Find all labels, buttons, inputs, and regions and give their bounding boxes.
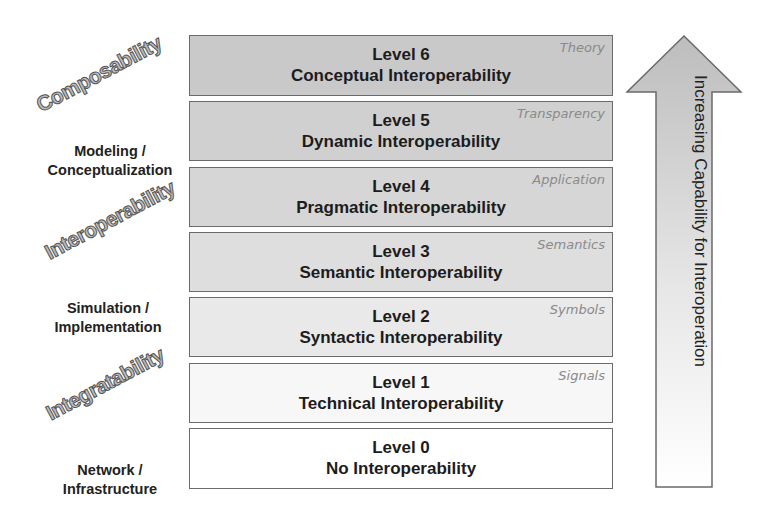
level-name: Pragmatic Interoperability	[190, 197, 612, 219]
level-number: Level 1	[190, 373, 612, 393]
simulation-line-1: Simulation /	[28, 299, 188, 318]
level-name: Syntactic Interoperability	[190, 327, 612, 349]
network-line-2: Infrastructure	[30, 480, 190, 499]
integratability-label: Integratability	[42, 343, 168, 425]
level-name: Dynamic Interoperability	[190, 131, 612, 153]
level-0-box: Level 0 No Interoperability	[189, 428, 613, 489]
level-tag: Application	[532, 172, 605, 187]
modeling-label: Modeling / Conceptualization	[30, 142, 190, 180]
level-tag: Semantics	[537, 237, 605, 252]
level-tag: Theory	[560, 40, 605, 55]
network-label: Network / Infrastructure	[30, 461, 190, 499]
level-tag: Symbols	[550, 302, 605, 317]
level-6-box: Level 6 Conceptual Interoperability Theo…	[189, 35, 613, 96]
level-name: Conceptual Interoperability	[190, 65, 612, 87]
arrow-label: Increasing Capability for Interoperation	[690, 75, 710, 367]
interoperability-label: Interoperability	[41, 176, 179, 265]
level-number: Level 0	[190, 438, 612, 458]
up-arrow-icon	[624, 34, 744, 494]
level-name: Technical Interoperability	[190, 393, 612, 415]
level-name: Semantic Interoperability	[190, 262, 612, 284]
level-number: Level 6	[190, 45, 612, 65]
simulation-label: Simulation / Implementation	[28, 299, 188, 337]
level-1-box: Level 1 Technical Interoperability Signa…	[189, 363, 613, 423]
level-name: No Interoperability	[190, 458, 612, 480]
level-4-box: Level 4 Pragmatic Interoperability Appli…	[189, 167, 613, 227]
level-tag: Transparency	[517, 106, 605, 121]
level-tag: Signals	[558, 368, 605, 383]
level-number: Level 2	[190, 307, 612, 327]
modeling-line-1: Modeling /	[30, 142, 190, 161]
network-line-1: Network /	[30, 461, 190, 480]
level-2-box: Level 2 Syntactic Interoperability Symbo…	[189, 297, 613, 357]
level-3-box: Level 3 Semantic Interoperability Semant…	[189, 232, 613, 292]
level-5-box: Level 5 Dynamic Interoperability Transpa…	[189, 101, 613, 161]
composability-label: Composability	[32, 31, 165, 117]
modeling-line-2: Conceptualization	[30, 161, 190, 180]
simulation-line-2: Implementation	[28, 318, 188, 337]
